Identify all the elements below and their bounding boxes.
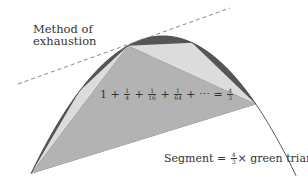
series-lead: 1 + xyxy=(100,88,123,101)
method-label-line2: exhaustion xyxy=(33,35,97,47)
series-term-2: 116 xyxy=(148,88,156,101)
series-plus-1: + xyxy=(131,88,147,101)
series-plus-2: + xyxy=(157,88,173,101)
geometric-series-label: 1 + 14 + 116 + 164 + ⋯ = 43 xyxy=(100,88,234,101)
series-term-1: 14 xyxy=(124,88,130,101)
segment-factor: 43 xyxy=(231,152,237,165)
segment-suffix: × green triangle xyxy=(238,152,308,165)
series-term-3: 164 xyxy=(174,88,182,101)
quadrature-diagram: Method of exhaustion 1 + 14 + 116 + 164 … xyxy=(0,0,308,183)
segment-area-label: Segment = 43× green triangle xyxy=(164,152,308,165)
method-of-exhaustion-label: Method of exhaustion xyxy=(33,23,97,47)
segment-prefix: Segment = xyxy=(164,152,230,165)
series-tail: + ⋯ = xyxy=(183,88,226,101)
series-result: 43 xyxy=(227,88,233,101)
